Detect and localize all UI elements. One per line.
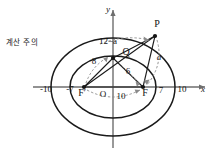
segment-label-12-minus-a: 12−a xyxy=(99,36,117,46)
arrowhead-10 xyxy=(135,89,140,93)
geometry-figure: 계산 주의 xyxy=(0,0,219,151)
point-q-label: Q xyxy=(122,46,130,57)
ellipse-diagram-svg: x y O -10 -7 7 10 P Q F F′ 12−a a 8 6 10 xyxy=(0,0,219,151)
segment-label-6: 6 xyxy=(126,66,131,76)
x-tick-label-minus-7: -7 xyxy=(66,84,74,94)
x-tick-label-7: 7 xyxy=(159,85,164,95)
segment-label-8: 8 xyxy=(92,56,97,66)
focus-right-label: F xyxy=(142,87,148,98)
y-axis-arrowhead xyxy=(110,10,115,16)
x-axis-label: x xyxy=(200,84,205,94)
focus-left-label: F′ xyxy=(78,87,86,98)
x-tick-label-minus-10: -10 xyxy=(40,84,52,94)
segment-label-a: a xyxy=(157,52,162,62)
point-p-marker xyxy=(153,34,157,38)
point-p-label: P xyxy=(154,18,160,29)
x-tick-label-10: 10 xyxy=(178,84,188,94)
arrowhead-8 xyxy=(103,57,108,62)
y-axis-label: y xyxy=(105,4,110,14)
origin-label: O xyxy=(100,89,107,99)
axes-group xyxy=(33,10,205,148)
point-q-marker xyxy=(111,56,115,60)
segment-label-10: 10 xyxy=(117,91,127,101)
